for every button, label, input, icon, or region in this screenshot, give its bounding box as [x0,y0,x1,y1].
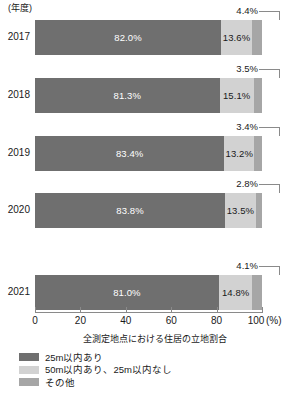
legend-label: 50m以内あり、25m以内なし [45,364,172,375]
table-row[interactable]: 81.3% 15.1% [35,78,262,113]
bar-segment-within-25m[interactable]: 83.8% [35,193,225,228]
bar-segment-other[interactable] [254,136,262,171]
bar-segment-within-50m[interactable]: 14.8% [219,275,253,310]
callout-label-other-2019: 3.4% [218,121,258,132]
legend-label: 25m以内あり [45,352,103,363]
x-axis-tick-0 [35,307,36,312]
bar-segment-other[interactable] [256,193,262,228]
x-axis-line [35,312,263,313]
category-label-2017: 2017 [0,31,30,43]
callout-label-other-2020: 2.8% [218,178,258,189]
x-axis-title: 全測定地点における住居の立地割合 [0,334,295,345]
x-axis-tick-60 [171,307,172,312]
legend-swatch-icon [19,378,39,386]
x-axis-tick-100 [262,307,263,312]
table-row[interactable]: 83.4% 13.2% [35,136,262,171]
x-axis-tick-label-80: 80 [211,315,222,327]
x-axis-tick-label-0: 0 [32,315,38,327]
legend-item-within-25m[interactable]: 25m以内あり [19,351,172,364]
bar-segment-within-25m[interactable]: 83.4% [35,136,224,171]
callout-label-other-2017: 4.4% [218,5,258,16]
bar-segment-within-50m[interactable]: 13.6% [221,20,252,55]
callout-label-other-2021: 4.1% [218,260,258,271]
x-axis-tick-40 [126,307,127,312]
x-axis-tick-80 [217,307,218,312]
y-axis-unit-label: (年度) [8,3,32,14]
callout-leader-v-2020 [279,184,280,193]
callout-leader-h-2018 [259,69,280,70]
bar-segment-within-50m[interactable]: 13.5% [225,193,256,228]
x-axis-tick-label-100: 100 [248,315,265,327]
bar-segment-within-50m[interactable]: 13.2% [224,136,254,171]
table-row[interactable]: 83.8% 13.5% [35,193,262,228]
x-axis-tick-label-60: 60 [166,315,177,327]
table-row[interactable]: 81.0% 14.8% [35,275,262,310]
legend-label: その他 [45,377,75,388]
callout-leader-v-2017 [279,11,280,20]
bar-segment-within-25m[interactable]: 81.0% [35,275,219,310]
callout-leader-v-2021 [279,266,280,275]
callout-leader-h-2020 [259,184,280,185]
legend: 25m以内あり 50m以内あり、25m以内なし その他 [19,351,172,389]
bar-segment-other[interactable] [252,20,262,55]
bar-segment-within-25m[interactable]: 82.0% [35,20,221,55]
category-label-2021: 2021 [0,286,30,298]
bar-segment-within-25m[interactable]: 81.3% [35,78,220,113]
stacked-bar-chart: (年度) 2017 2018 2019 2020 2021 82.0% 13.6… [0,0,295,393]
x-axis-percent-suffix: (%) [266,315,282,327]
table-row[interactable]: 82.0% 13.6% [35,20,262,55]
legend-swatch-icon [19,353,39,361]
x-axis-tick-20 [80,307,81,312]
legend-item-within-50m[interactable]: 50m以内あり、25m以内なし [19,364,172,377]
category-label-2018: 2018 [0,89,30,101]
callout-leader-h-2021 [259,266,280,267]
x-axis-tick-label-40: 40 [120,315,131,327]
x-axis-tick-label-20: 20 [75,315,86,327]
bar-segment-other[interactable] [252,275,261,310]
callout-leader-h-2019 [259,127,280,128]
bar-segment-within-50m[interactable]: 15.1% [220,78,254,113]
legend-item-other[interactable]: その他 [19,376,172,389]
callout-label-other-2018: 3.5% [218,63,258,74]
callout-leader-v-2018 [279,69,280,78]
callout-leader-h-2017 [259,11,280,12]
category-label-2020: 2020 [0,204,30,216]
bar-segment-other[interactable] [254,78,262,113]
callout-leader-v-2019 [279,127,280,136]
category-label-2019: 2019 [0,147,30,159]
legend-swatch-icon [19,366,39,374]
